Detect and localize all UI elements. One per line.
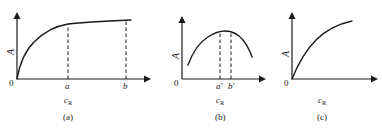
- panel-b: 0 A a′ b′ cR (b): [160, 0, 272, 131]
- panel-a-tick-a: a: [65, 82, 70, 91]
- panel-c-y-axis-label: A: [281, 51, 291, 57]
- panel-a-tick-b: b: [123, 82, 128, 91]
- panel-c-caption: (c): [317, 113, 327, 122]
- panel-b-x-axis-label-sub: R: [220, 99, 224, 106]
- panel-c-plot: [272, 0, 382, 131]
- panel-b-tick-b-prime: b′: [228, 82, 234, 91]
- panel-a-caption: (a): [63, 113, 73, 122]
- panel-c-x-axis-label-sub: R: [322, 99, 326, 106]
- panel-b-caption: (b): [215, 113, 226, 122]
- panel-b-origin-label: 0: [174, 79, 179, 88]
- panel-a-plot: [0, 0, 160, 131]
- panel-a-x-axis-label-sub: R: [68, 99, 72, 106]
- panel-a-origin-label: 0: [9, 79, 14, 88]
- panel-c-curve: [292, 21, 352, 79]
- panel-b-tick-a-prime: a′: [216, 82, 222, 91]
- panel-a-x-axis-label: cR: [64, 96, 72, 105]
- panel-c-origin-label: 0: [284, 79, 289, 88]
- panel-b-y-axis-label: A: [171, 53, 181, 59]
- panel-a: 0 A a b cR (a): [0, 0, 160, 131]
- panel-b-x-axis-label: cR: [216, 96, 224, 105]
- panel-a-y-axis-label: A: [6, 49, 16, 55]
- panel-c: 0 A cR (c): [272, 0, 382, 131]
- figure-container: 0 A a b cR (a): [0, 0, 382, 131]
- panel-c-x-axis-label: cR: [318, 96, 326, 105]
- panel-a-curve: [17, 20, 131, 79]
